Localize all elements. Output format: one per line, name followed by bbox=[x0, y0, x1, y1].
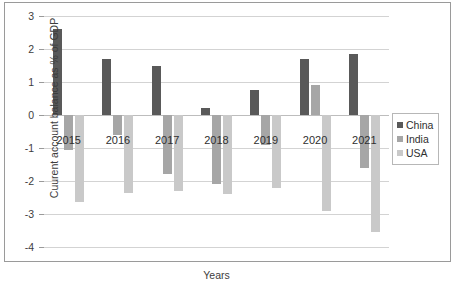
legend-item-india[interactable]: India bbox=[397, 132, 433, 146]
legend-swatch-icon bbox=[397, 122, 403, 128]
y-axis-tick-label: 3 bbox=[0, 11, 34, 22]
chart-legend: ChinaIndiaUSA bbox=[392, 113, 439, 165]
y-axis-tick-label: -2 bbox=[0, 176, 34, 187]
x-axis-tick-label: 2019 bbox=[241, 135, 290, 146]
gridline bbox=[44, 247, 389, 248]
bar-group: 2017 bbox=[143, 16, 192, 247]
legend-label: USA bbox=[406, 147, 428, 159]
bar-group: 2018 bbox=[192, 16, 241, 247]
legend-label: India bbox=[406, 133, 429, 145]
y-axis-tick-label: 1 bbox=[0, 77, 34, 88]
legend-swatch-icon bbox=[397, 136, 403, 142]
bar-india-2016 bbox=[113, 115, 122, 135]
legend-label: China bbox=[406, 119, 433, 131]
plot-area: 3210-1-2-3-4 201520162017201820192020202… bbox=[44, 16, 389, 247]
bar-china-2020 bbox=[300, 59, 309, 115]
x-axis-tick-label: 2021 bbox=[340, 135, 389, 146]
bar-usa-2017 bbox=[174, 115, 183, 191]
figure-caption bbox=[14, 268, 444, 280]
bar-usa-2016 bbox=[124, 115, 133, 193]
y-axis-tick-label: -1 bbox=[0, 143, 34, 154]
bar-china-2019 bbox=[250, 90, 259, 115]
bar-usa-2019 bbox=[272, 115, 281, 188]
y-axis-title: Cuurent account balance as % of GDP bbox=[48, 0, 60, 222]
legend-item-china[interactable]: China bbox=[397, 118, 433, 132]
bar-china-2016 bbox=[102, 59, 111, 115]
bar-india-2020 bbox=[311, 85, 320, 115]
y-axis-tick-label: -4 bbox=[0, 242, 34, 253]
x-axis-tick-label: 2017 bbox=[143, 135, 192, 146]
bar-china-2017 bbox=[152, 66, 161, 116]
bar-group: 2019 bbox=[241, 16, 290, 247]
bar-india-2018 bbox=[212, 115, 221, 184]
bar-group: 2021 bbox=[340, 16, 389, 247]
y-axis-tick-mark bbox=[39, 247, 44, 248]
figure-container: 3210-1-2-3-4 201520162017201820192020202… bbox=[0, 0, 455, 283]
legend-item-usa[interactable]: USA bbox=[397, 146, 433, 160]
bar-china-2021 bbox=[349, 54, 358, 115]
bar-usa-2015 bbox=[75, 115, 84, 202]
bar-usa-2018 bbox=[223, 115, 232, 194]
bar-group: 2020 bbox=[290, 16, 339, 247]
y-axis-tick-label: 0 bbox=[0, 110, 34, 121]
x-axis-tick-label: 2020 bbox=[290, 135, 339, 146]
bar-china-2018 bbox=[201, 108, 210, 115]
y-axis-tick-label: 2 bbox=[0, 44, 34, 55]
legend-swatch-icon bbox=[397, 150, 403, 156]
bar-group: 2016 bbox=[93, 16, 142, 247]
x-axis-tick-label: 2018 bbox=[192, 135, 241, 146]
bar-usa-2020 bbox=[322, 115, 331, 211]
bar-usa-2021 bbox=[371, 115, 380, 232]
y-axis-tick-label: -3 bbox=[0, 209, 34, 220]
x-axis-tick-label: 2016 bbox=[93, 135, 142, 146]
